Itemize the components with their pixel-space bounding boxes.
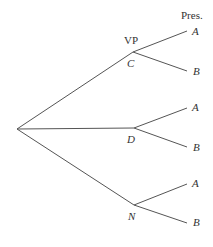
leaf-c-a: A xyxy=(192,26,199,37)
branch-d-a xyxy=(134,108,187,128)
branch-n-a xyxy=(134,184,187,205)
leaf-c-b: B xyxy=(193,66,200,77)
leaf-d-b: B xyxy=(193,142,200,153)
branch-c-b xyxy=(133,52,187,71)
leaf-n-a: A xyxy=(192,178,199,189)
node-c: C xyxy=(127,58,134,69)
header-vp: VP xyxy=(124,35,138,46)
tree-diagram xyxy=(0,0,213,247)
branch-root-c xyxy=(17,52,133,129)
branch-n-b xyxy=(134,205,187,223)
node-d: D xyxy=(127,134,135,145)
leaf-d-a: A xyxy=(192,102,199,113)
branch-root-n xyxy=(17,129,134,205)
header-pres: Pres. xyxy=(181,10,203,21)
node-n: N xyxy=(128,211,135,222)
branch-c-a xyxy=(133,31,187,52)
leaf-n-b: B xyxy=(193,217,200,228)
branch-root-d xyxy=(17,128,134,129)
branch-d-b xyxy=(134,128,187,147)
